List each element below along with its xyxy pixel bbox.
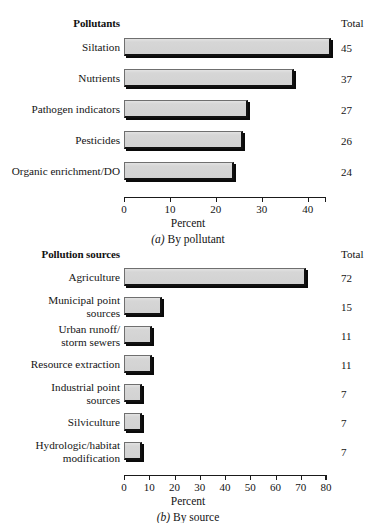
axis-tick (216, 197, 217, 202)
bar (124, 384, 142, 402)
total-value: 7 (341, 446, 347, 458)
category-label: Agriculture (68, 271, 120, 283)
table-row: Organic enrichment/DO24 (0, 162, 376, 193)
axis-tick-label: 50 (245, 481, 256, 493)
total-value: 45 (341, 42, 352, 54)
category-label: Silviculture (68, 416, 120, 428)
table-row: Resource extraction11 (0, 355, 376, 384)
figure-b-header-row: Pollution sources Total (0, 248, 376, 262)
figure-by-pollutant: Pollutants Total Siltation45Nutrients37P… (0, 0, 376, 240)
figure-b-total-header: Total (341, 248, 363, 260)
figure-b-caption: (b) By source (0, 511, 376, 523)
table-row: Urban runoff/ storm sewers11 (0, 326, 376, 355)
bar (124, 268, 306, 286)
category-label: Resource extraction (31, 358, 120, 370)
table-row: Pathogen indicators27 (0, 100, 376, 131)
axis-tick-label: 0 (121, 481, 127, 493)
figure-b-x-axis: 01020304050607080 (124, 475, 326, 476)
axis-tick-label: 40 (220, 481, 231, 493)
axis-tick-label: 20 (210, 203, 221, 215)
axis-tick (326, 475, 327, 480)
total-value: 11 (341, 359, 352, 371)
figure-b-axis-title: Percent (0, 495, 376, 507)
total-value: 11 (341, 330, 352, 342)
total-value: 24 (341, 166, 352, 178)
total-value: 37 (341, 73, 352, 85)
axis-tick-label: 30 (256, 203, 267, 215)
category-label: Pathogen indicators (31, 103, 120, 115)
figure-by-source: Pollution sources Total Agriculture72Mun… (0, 240, 376, 518)
axis-tick (170, 197, 171, 202)
figure-a-axis-title: Percent (0, 217, 376, 229)
figure-b-category-header: Pollution sources (42, 248, 120, 260)
axis-tick-label: 30 (194, 481, 205, 493)
axis-tick (308, 197, 309, 202)
table-row: Siltation45 (0, 38, 376, 69)
category-label: Organic enrichment/DO (12, 165, 120, 177)
axis-tick (276, 475, 277, 480)
axis-tick (175, 475, 176, 480)
bar (124, 442, 142, 460)
table-row: Nutrients37 (0, 69, 376, 100)
figure-b-caption-text: By source (170, 511, 219, 523)
axis-end-tick (325, 475, 326, 480)
bar (124, 100, 248, 118)
total-value: 27 (341, 104, 352, 116)
bar (124, 131, 243, 149)
table-row: Industrial point sources7 (0, 384, 376, 413)
category-label: Siltation (82, 41, 120, 53)
axis-tick (124, 475, 125, 480)
category-label: Hydrologic/habitat modification (35, 439, 120, 464)
bar (124, 413, 142, 431)
axis-tick (262, 197, 263, 202)
bar (124, 297, 162, 315)
total-value: 15 (341, 301, 352, 313)
axis-tick-label: 0 (121, 203, 127, 215)
axis-tick-label: 70 (295, 481, 306, 493)
table-row: Municipal point sources15 (0, 297, 376, 326)
axis-tick-label: 60 (270, 481, 281, 493)
table-row: Pesticides26 (0, 131, 376, 162)
axis-tick-label: 10 (164, 203, 175, 215)
total-value: 7 (341, 388, 347, 400)
total-value: 7 (341, 417, 347, 429)
figure-a-x-axis: 010203040 (124, 197, 326, 198)
axis-tick-label: 10 (144, 481, 155, 493)
figure-a-header-row: Pollutants Total (0, 17, 376, 31)
axis-tick-label: 80 (321, 481, 332, 493)
bar (124, 38, 331, 56)
bar (124, 326, 152, 344)
category-label: Municipal point sources (48, 294, 120, 319)
bar (124, 162, 234, 180)
table-row: Agriculture72 (0, 268, 376, 297)
category-label: Pesticides (75, 134, 120, 146)
category-label: Urban runoff/ storm sewers (58, 323, 120, 348)
figure-b-caption-marker: (b) (157, 511, 170, 523)
axis-tick (225, 475, 226, 480)
bar (124, 69, 294, 87)
axis-tick-label: 40 (302, 203, 313, 215)
axis-tick (149, 475, 150, 480)
axis-tick-label: 20 (169, 481, 180, 493)
figure-a-category-header: Pollutants (73, 17, 120, 29)
total-value: 72 (341, 272, 352, 284)
figure-a-total-header: Total (341, 17, 363, 29)
category-label: Industrial point sources (51, 381, 120, 406)
axis-tick (200, 475, 201, 480)
bar (124, 355, 152, 373)
category-label: Nutrients (78, 72, 120, 84)
axis-tick (250, 475, 251, 480)
axis-tick (124, 197, 125, 202)
axis-tick (301, 475, 302, 480)
total-value: 26 (341, 135, 352, 147)
axis-end-tick (325, 197, 326, 202)
table-row: Hydrologic/habitat modification7 (0, 442, 376, 471)
table-row: Silviculture7 (0, 413, 376, 442)
